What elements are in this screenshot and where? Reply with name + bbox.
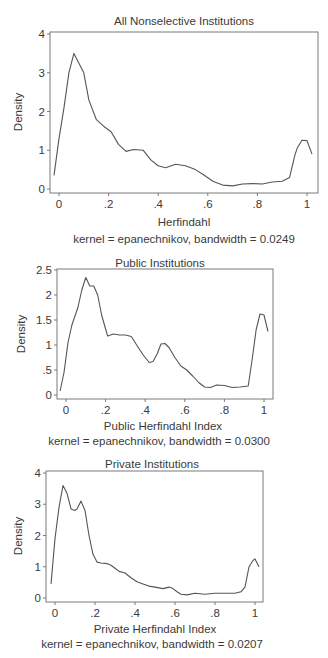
x-tick-label: .4 — [140, 404, 150, 416]
y-axis-label: Density — [12, 517, 24, 556]
kernel-note: kernel = epanechnikov, bandwidth = 0.030… — [48, 435, 270, 447]
y-tick-label: 1 — [46, 339, 52, 351]
plot-frame — [50, 32, 318, 193]
plot-area: 012340.2.4.6.81 — [39, 28, 318, 210]
x-axis-label: Public Herfindahl Index — [104, 420, 223, 432]
y-tick-label: 3 — [35, 498, 41, 510]
x-tick-label: 0 — [52, 607, 58, 619]
kernel-note: kernel = epanechnikov, bandwidth = 0.024… — [73, 233, 295, 245]
y-axis-label: Density — [12, 93, 24, 132]
x-axis-label: Private Herfindahl Index — [94, 623, 217, 635]
x-tick-label: 0 — [63, 404, 69, 416]
density-curve — [51, 486, 259, 595]
x-tick-label: .8 — [220, 404, 230, 416]
x-tick-label: .6 — [170, 607, 180, 619]
y-tick-label: 2.5 — [36, 264, 52, 276]
y-tick-label: 0 — [35, 592, 41, 604]
x-tick-label: 1 — [304, 198, 310, 210]
y-tick-label: 0 — [46, 389, 52, 401]
y-tick-label: .5 — [42, 364, 52, 376]
x-tick-label: .2 — [90, 607, 100, 619]
y-tick-label: 4 — [35, 467, 42, 479]
y-tick-label: 1 — [35, 561, 41, 573]
chart-panel-private: Private Institutions Density Private Her… — [12, 458, 263, 650]
plot-area: 012340.2.4.6.81 — [35, 467, 263, 619]
x-axis-label: Herfindahl — [158, 216, 210, 228]
x-tick-label: .6 — [203, 198, 213, 210]
x-tick-label: .2 — [101, 404, 111, 416]
x-tick-label: .8 — [210, 607, 220, 619]
chart-panel-all-nonselective: All Nonselective Institutions Density He… — [12, 15, 318, 245]
plot-area: 0.511.522.50.2.4.6.81 — [36, 264, 273, 416]
y-tick-label: 2 — [39, 106, 45, 118]
y-tick-label: 2 — [35, 530, 41, 542]
plot-frame — [46, 471, 263, 602]
chart-title: Private Institutions — [105, 458, 199, 470]
y-tick-label: 3 — [39, 67, 45, 79]
figure: All Nonselective Institutions Density He… — [0, 0, 328, 658]
y-tick-label: 1 — [39, 144, 45, 156]
x-tick-label: .4 — [130, 607, 140, 619]
x-tick-label: 0 — [56, 198, 62, 210]
chart-title: Public Institutions — [115, 257, 205, 269]
plot-frame — [57, 269, 273, 399]
kernel-note: kernel = epanechnikov, bandwidth = 0.020… — [41, 638, 263, 650]
x-tick-label: 1 — [261, 404, 267, 416]
y-tick-label: 0 — [39, 183, 45, 195]
x-tick-label: .4 — [153, 198, 163, 210]
chart-title: All Nonselective Institutions — [114, 15, 254, 27]
y-tick-label: 1.5 — [36, 314, 52, 326]
x-tick-label: .6 — [180, 404, 190, 416]
x-tick-label: 1 — [252, 607, 258, 619]
density-curve — [54, 53, 312, 186]
chart-panel-public: Public Institutions Density Public Herfi… — [15, 257, 273, 447]
x-tick-label: .8 — [253, 198, 263, 210]
y-axis-label: Density — [15, 315, 27, 354]
y-tick-label: 4 — [39, 28, 46, 40]
x-tick-label: .2 — [104, 198, 114, 210]
density-curve — [60, 278, 268, 392]
y-tick-label: 2 — [46, 289, 52, 301]
